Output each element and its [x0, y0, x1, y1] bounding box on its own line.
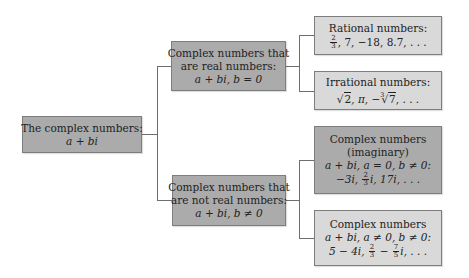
node-label: Complex numbers [330, 218, 427, 231]
node-label: Irrational numbers: [326, 76, 430, 89]
fraction: 7 5 [393, 244, 399, 259]
node-imaginary-numbers: Complex numbers (imaginary) a + bi, a = … [314, 126, 442, 194]
connector-root-out [142, 134, 157, 135]
node-examples: √2, π, −3√7, . . . [337, 89, 419, 106]
connector-not-real-out [286, 200, 299, 201]
node-not-real-numbers: Complex numbers that are not real number… [172, 175, 286, 226]
node-complex-nonzero: Complex numbers a + bi, a ≠ 0, b ≠ 0: 5 … [314, 210, 442, 266]
node-formula: a + bi, b ≠ 0 [195, 207, 262, 220]
fraction: 2 3 [330, 35, 336, 50]
node-examples: 2 3 , 7, −18, 8.7, . . . [329, 35, 426, 50]
connector-to-irrational [299, 91, 314, 92]
node-label: The complex numbers: [21, 122, 142, 135]
square-root: √2 [337, 93, 351, 106]
connector-to-complex-nonzero [299, 238, 314, 239]
node-label: are real numbers: [181, 60, 276, 73]
node-complex-numbers: The complex numbers: a + bi [22, 116, 142, 153]
connector-not-real-vertical [299, 160, 300, 238]
connector-root-vertical [157, 66, 158, 201]
node-label: Rational numbers: [329, 22, 427, 35]
node-real-numbers: Complex numbers that are real numbers: a… [171, 41, 286, 91]
connector-to-real [157, 66, 172, 67]
connector-to-not-real [157, 200, 172, 201]
connector-to-rational [299, 35, 314, 36]
node-label: Complex numbers that [168, 47, 290, 60]
node-formula: a + bi [66, 135, 98, 148]
connector-real-out [286, 66, 299, 67]
node-formula: a + bi, b = 0 [195, 73, 262, 86]
node-label: (imaginary) [347, 146, 409, 159]
node-examples: −3i, 2 3 i, 17i, . . . [336, 172, 420, 187]
connector-real-vertical [299, 35, 300, 91]
node-label: Complex numbers [330, 133, 427, 146]
connector-to-imaginary [299, 160, 314, 161]
node-label: are not real numbers: [171, 194, 287, 207]
cube-root: 3√7 [380, 89, 396, 106]
node-formula: a + bi, a ≠ 0, b ≠ 0: [325, 231, 431, 244]
node-formula: a + bi, a = 0, b ≠ 0: [325, 159, 431, 172]
node-label: Complex numbers that [168, 181, 290, 194]
fraction: 2 3 [362, 172, 368, 187]
node-irrational-numbers: Irrational numbers: √2, π, −3√7, . . . [314, 71, 442, 110]
node-rational-numbers: Rational numbers: 2 3 , 7, −18, 8.7, . .… [314, 16, 442, 55]
fraction: 2 3 [369, 244, 375, 259]
node-examples: 5 − 4i, 2 3 − 7 5 i, . . . [329, 244, 427, 259]
